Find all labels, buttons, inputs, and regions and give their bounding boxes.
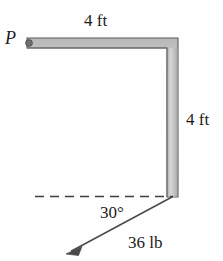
figure-canvas: P 4 ft 4 ft 30° 36 lb [0,0,223,261]
point-p-label: P [5,29,16,47]
force-vector-arrowhead [66,247,82,256]
top-member-length-label: 4 ft [84,12,107,29]
right-member-length-label: 4 ft [186,111,209,128]
bar-inner-edge [27,48,167,197]
pin-point-marker [26,40,33,47]
vertical-member-shading [168,48,178,196]
bar-outline [27,38,178,197]
force-angle-label: 30° [100,204,124,221]
force-magnitude-label: 36 lb [128,234,162,251]
bent-bar-body [27,38,178,197]
